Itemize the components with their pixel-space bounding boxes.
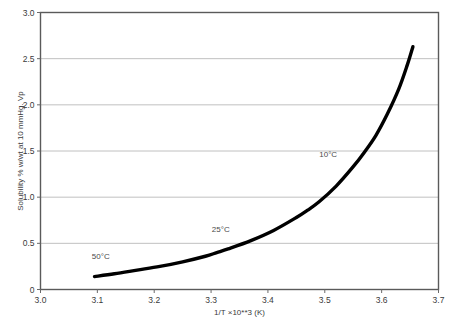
curve-annotation-label: 25°C [212, 225, 230, 234]
curve-annotation-label: 10°C [319, 150, 337, 159]
chart-canvas: 3.03.13.23.33.43.53.63.7 00.51.01.52.02.… [0, 0, 455, 327]
x-tick-label: 3.5 [319, 295, 331, 305]
x-tick-label: 3.1 [91, 295, 103, 305]
x-tick-label: 3.7 [433, 295, 445, 305]
solubility-vs-inverse-temperature-chart: 3.03.13.23.33.43.53.63.7 00.51.01.52.02.… [0, 0, 455, 327]
y-tick-label: 0.5 [23, 238, 35, 248]
x-axis-title: 1/T ×10**3 (K) [214, 308, 265, 317]
y-tick-label: 0 [30, 285, 35, 295]
x-tick-label: 3.4 [262, 295, 274, 305]
y-axis-title: Solubility % w/wt at 10 mmHg. Vp [16, 91, 25, 211]
chart-screenshot: 3.03.13.23.33.43.53.63.7 00.51.01.52.02.… [0, 0, 455, 327]
chart-background [0, 0, 455, 327]
x-tick-label: 3.2 [148, 295, 160, 305]
x-tick-label: 3.6 [376, 295, 388, 305]
y-tick-label: 2.5 [23, 54, 35, 64]
x-tick-label: 3.0 [35, 295, 47, 305]
curve-annotation-label: 50°C [92, 252, 110, 261]
x-tick-label: 3.3 [205, 295, 217, 305]
y-tick-label: 3.0 [23, 8, 35, 18]
